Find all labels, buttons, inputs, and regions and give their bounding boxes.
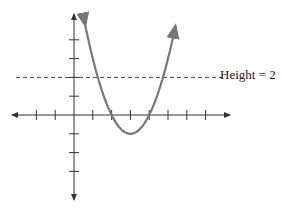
height-label: Height = 2 <box>220 67 276 83</box>
parabola-chart <box>0 0 283 208</box>
axes <box>12 14 230 200</box>
tick-marks <box>36 40 205 172</box>
